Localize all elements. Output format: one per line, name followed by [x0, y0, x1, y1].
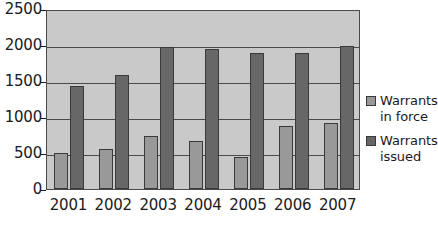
bar-2001-series2: [70, 86, 84, 189]
y-axis: 05001000150020002500: [0, 0, 42, 239]
bar-group-2007: [324, 11, 354, 189]
y-axis-tickmark: [40, 190, 46, 191]
bar-2004-series1: [189, 141, 203, 189]
legend-swatch-icon: [366, 96, 376, 106]
chart-legend: Warrants in forceWarrants issued: [366, 93, 434, 173]
y-axis-tick-label: 2500: [2, 4, 42, 14]
y-axis-tick-label: 1500: [2, 76, 42, 86]
y-axis-tickmark: [40, 82, 46, 83]
legend-entry-2: Warrants issued: [366, 133, 434, 165]
x-axis-tick-label-2006: 2006: [270, 196, 315, 214]
bar-2001-series1: [54, 153, 68, 189]
bar-2005-series2: [250, 53, 264, 189]
x-axis-tick-label-2002: 2002: [91, 196, 136, 214]
bar-2007-series2: [340, 46, 354, 189]
bar-2002-series1: [99, 149, 113, 189]
y-axis-tickmark: [40, 154, 46, 155]
bar-2004-series2: [205, 49, 219, 189]
y-axis-tick-label: 1000: [2, 112, 42, 122]
bar-group-2005: [234, 11, 264, 189]
bar-2003-series1: [144, 136, 158, 189]
y-axis-tick-label: 500: [2, 148, 42, 158]
bar-group-2003: [144, 11, 174, 189]
bar-2007-series1: [324, 123, 338, 189]
bar-group-2006: [279, 11, 309, 189]
bar-2006-series1: [279, 126, 293, 189]
y-axis-tickmark: [40, 46, 46, 47]
x-axis-tick-label-2005: 2005: [225, 196, 270, 214]
legend-swatch-icon: [366, 136, 376, 146]
x-axis: 2001200220032004200520062007: [46, 196, 360, 220]
x-axis-tick-label-2001: 2001: [46, 196, 91, 214]
y-axis-tick-label: 2000: [2, 40, 42, 50]
y-axis-tickmark: [40, 10, 46, 11]
x-axis-tick-label-2003: 2003: [136, 196, 181, 214]
bar-2003-series2: [160, 47, 174, 189]
x-axis-tick-label-2004: 2004: [181, 196, 226, 214]
bars-layer: [47, 11, 359, 189]
bar-group-2004: [189, 11, 219, 189]
bar-2002-series2: [115, 75, 129, 189]
legend-label: Warrants in force: [380, 93, 438, 125]
bar-group-2001: [54, 11, 84, 189]
legend-entry-1: Warrants in force: [366, 93, 434, 125]
y-axis-tickmark: [40, 118, 46, 119]
y-axis-tick-label: 0: [2, 184, 42, 194]
bar-2005-series1: [234, 157, 248, 189]
plot-area: [46, 10, 360, 190]
x-axis-tick-label-2007: 2007: [315, 196, 360, 214]
legend-label: Warrants issued: [380, 133, 438, 165]
bar-group-2002: [99, 11, 129, 189]
bar-2006-series2: [295, 53, 309, 189]
